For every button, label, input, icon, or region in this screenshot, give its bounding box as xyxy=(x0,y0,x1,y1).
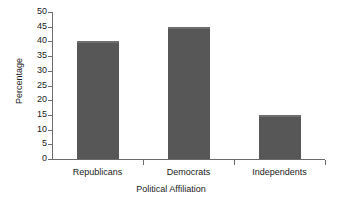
y-axis-tick-label: 15 xyxy=(29,110,47,119)
y-axis-tick-labels: 05101520253035404550 xyxy=(28,0,47,203)
y-axis-tick-label: 45 xyxy=(29,22,47,31)
y-axis-tick-mark xyxy=(48,86,52,87)
y-axis-tick-label: 20 xyxy=(29,95,47,104)
y-axis-tick-mark xyxy=(48,71,52,72)
y-axis-tick-mark xyxy=(48,56,52,57)
x-axis-tick-mark xyxy=(143,160,144,165)
bar xyxy=(77,41,119,159)
y-axis-tick-label: 0 xyxy=(29,154,47,163)
y-axis-tick-label: 25 xyxy=(29,81,47,90)
x-axis-line xyxy=(52,159,325,160)
y-axis-tick-label: 40 xyxy=(29,36,47,45)
y-axis-tick-mark xyxy=(48,100,52,101)
bar xyxy=(259,115,301,159)
x-axis-category-label: Independents xyxy=(234,167,325,177)
x-axis-category-label: Democrats xyxy=(143,167,234,177)
y-axis-tick-label: 35 xyxy=(29,51,47,60)
y-axis-tick-mark xyxy=(48,115,52,116)
x-axis-tick-mark xyxy=(234,160,235,165)
y-axis-tick-mark xyxy=(48,12,52,13)
x-axis-tick-mark xyxy=(325,160,326,165)
x-axis-category-label: Republicans xyxy=(52,167,143,177)
plot-area xyxy=(52,12,325,160)
y-axis-tick-label: 30 xyxy=(29,66,47,75)
y-axis-tick-label: 50 xyxy=(29,7,47,16)
y-axis-tick-mark xyxy=(48,27,52,28)
y-axis-tick-label: 5 xyxy=(29,139,47,148)
y-axis-tick-label: 10 xyxy=(29,125,47,134)
bar xyxy=(168,27,210,159)
y-axis-tick-mark xyxy=(48,144,52,145)
y-axis-tick-mark xyxy=(48,41,52,42)
y-axis-line xyxy=(52,12,53,160)
y-axis-title: Percentage xyxy=(14,31,24,131)
bar-chart: Percentage 05101520253035404550 Republic… xyxy=(0,0,342,203)
y-axis-tick-mark xyxy=(48,159,52,160)
y-axis-tick-mark xyxy=(48,130,52,131)
x-axis-title: Political Affiliation xyxy=(0,184,342,194)
